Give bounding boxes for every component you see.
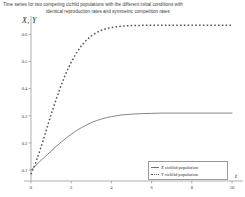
legend-item-y: Y cichlid population (151, 171, 225, 178)
svg-text:0.2: 0.2 (22, 141, 28, 146)
svg-text:0: 0 (30, 185, 33, 190)
y-axis-label: X, Y (22, 16, 37, 25)
x-axis-label: t (235, 172, 237, 180)
series-y (31, 25, 232, 174)
svg-text:10: 10 (230, 185, 235, 190)
legend-item-x: X cichlid population (151, 164, 225, 171)
plot-area: X, Y t 02468100.10.20.30.40.50.6 X cichl… (0, 14, 245, 197)
svg-text:8: 8 (191, 185, 194, 190)
svg-text:4: 4 (110, 185, 113, 190)
svg-text:0.5: 0.5 (22, 59, 28, 64)
figure: Time series for two competing cichlid po… (0, 0, 245, 197)
legend-swatch-solid-line-icon (151, 165, 159, 170)
svg-text:0.3: 0.3 (22, 114, 28, 119)
legend-text-x: cichlid population (164, 165, 198, 170)
caption-line-1: Time series for two competing cichlid po… (3, 2, 183, 7)
legend-label-x: X cichlid population (161, 165, 198, 170)
svg-text:2: 2 (70, 185, 73, 190)
svg-text:0.1: 0.1 (22, 168, 28, 173)
legend-swatch-dotted-line-icon (151, 172, 159, 177)
chart-legend: X cichlid population Y cichlid populatio… (148, 161, 228, 180)
svg-text:0.6: 0.6 (22, 32, 28, 37)
svg-text:6: 6 (150, 185, 153, 190)
legend-text-y: cichlid population (164, 172, 198, 177)
svg-text:0.4: 0.4 (22, 86, 28, 91)
legend-label-y: Y cichlid population (161, 172, 198, 177)
